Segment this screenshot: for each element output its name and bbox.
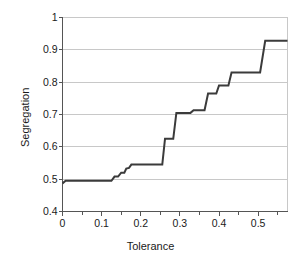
y-tick-label: 0.8 xyxy=(32,77,58,88)
x-tick-label: 0.3 xyxy=(165,218,195,229)
y-tick-label: 0.5 xyxy=(32,174,58,185)
x-tick-label: 0.2 xyxy=(126,218,156,229)
axis-ticks xyxy=(59,18,278,216)
x-tick-label: 0.5 xyxy=(243,218,273,229)
y-tick-label: 0.9 xyxy=(32,44,58,55)
y-tick-label: 0.6 xyxy=(32,141,58,152)
x-tick-label: 0 xyxy=(48,218,78,229)
y-tick-label: 0.7 xyxy=(32,109,58,120)
x-tick-label: 0.4 xyxy=(204,218,234,229)
y-tick-label: 0.4 xyxy=(32,206,58,217)
y-tick-label: 1 xyxy=(32,12,58,23)
y-axis-title: Segregation xyxy=(19,87,31,146)
segregation-tolerance-chart: 0.40.50.60.70.80.91 00.10.20.30.40.5 Tol… xyxy=(0,0,301,266)
grid-lines xyxy=(63,18,288,180)
data-series-line xyxy=(63,41,288,184)
x-tick-label: 0.1 xyxy=(87,218,117,229)
x-axis-title: Tolerance xyxy=(0,240,301,252)
